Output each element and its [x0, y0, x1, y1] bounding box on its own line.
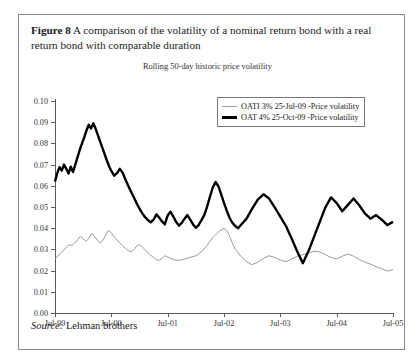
x-axis-tick-mark: [55, 313, 56, 317]
y-axis-tick-label: 0.07: [19, 160, 48, 169]
y-axis-tick-label: 0.08: [19, 139, 48, 148]
chart-legend: OATI 3% 25-Jul-09 -Price volatility OAT …: [217, 97, 365, 127]
y-axis-tick-label: 0.00: [19, 309, 48, 318]
x-axis-tick-mark: [224, 313, 225, 317]
y-axis-tick-label: 0.02: [19, 266, 48, 275]
series-line-real-return: [55, 228, 393, 271]
series-line-nominal-return: [55, 123, 393, 263]
y-axis-tick-label: 0.01: [19, 287, 48, 296]
source-label: Source:: [31, 320, 63, 331]
x-axis-tick-label: Jul-01: [157, 319, 177, 328]
x-axis-tick-label: Jul-05: [383, 319, 403, 328]
source-value: Lehman brothers: [66, 320, 137, 331]
x-axis-tick-mark: [280, 313, 281, 317]
y-axis-tick-label: 0.06: [19, 181, 48, 190]
x-axis-tick-label: Jul-02: [214, 319, 234, 328]
chart-title: Rolling 50-day historic price volatility: [143, 62, 272, 71]
chart: Rolling 50-day historic price volatility…: [19, 59, 406, 314]
y-axis-tick-label: 0.04: [19, 224, 48, 233]
legend-swatch-real-return-icon: [222, 106, 237, 107]
legend-label-real-return: OATI 3% 25-Jul-09 -Price volatility: [241, 102, 359, 111]
x-axis-tick-mark: [111, 313, 112, 317]
x-axis-tick-label: Jul-04: [326, 319, 346, 328]
figure-caption-text: A comparison of the volatility of a nomi…: [31, 24, 371, 51]
series-lines: [55, 101, 393, 313]
x-axis-tick-mark: [168, 313, 169, 317]
figure-label: Figure 8: [31, 24, 71, 36]
y-axis-tick-label: 0.05: [19, 203, 48, 212]
x-axis-tick-mark: [393, 313, 394, 317]
figure-panel: Figure 8 A comparison of the volatility …: [18, 14, 405, 350]
y-axis-tick-label: 0.03: [19, 245, 48, 254]
legend-item-real-return: OATI 3% 25-Jul-09 -Price volatility: [222, 101, 359, 112]
source-note: Source: Lehman brothers: [31, 320, 137, 331]
y-axis-tick-label: 0.10: [19, 97, 48, 106]
y-axis-tick-label: 0.09: [19, 118, 48, 127]
legend-label-nominal-return: OAT 4% 25-Oct-09 -Price volatility: [241, 113, 359, 122]
x-axis-tick-mark: [337, 313, 338, 317]
plot-area: [55, 101, 393, 313]
figure-caption: Figure 8 A comparison of the volatility …: [31, 23, 391, 53]
legend-swatch-nominal-return-icon: [222, 116, 237, 119]
x-axis-tick-label: Jul-03: [270, 319, 290, 328]
legend-item-nominal-return: OAT 4% 25-Oct-09 -Price volatility: [222, 112, 359, 123]
